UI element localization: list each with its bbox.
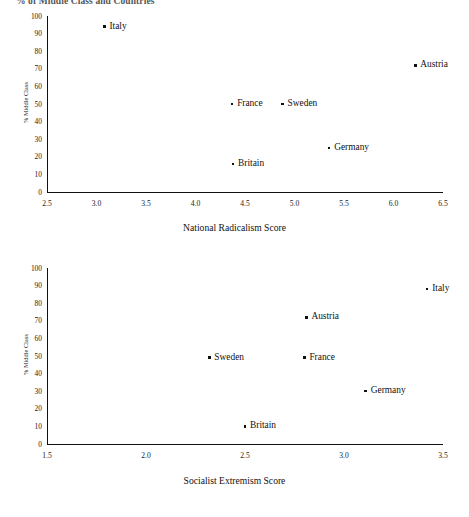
y-axis-tick-label: 70 xyxy=(16,65,42,72)
scatter-point xyxy=(208,356,211,359)
x-axis-line xyxy=(47,444,443,445)
x-axis-title: National Radicalism Score xyxy=(0,222,469,233)
y-axis-tick-label: 40 xyxy=(16,370,42,377)
y-axis-tick-label: 0 xyxy=(16,189,42,196)
y-axis-tick-label: 80 xyxy=(16,300,42,307)
y-axis-tick-label: 80 xyxy=(16,48,42,55)
scatter-point xyxy=(232,163,235,166)
scatter-point xyxy=(281,103,284,106)
scatter-point xyxy=(103,25,106,28)
scatter-chart-socialist-extremism: 01020304050607080901001.52.02.53.03.5% M… xyxy=(0,262,469,512)
figure-title: % of Middle Class and Countries xyxy=(16,0,155,5)
x-axis-tick-label: 6.0 xyxy=(379,200,409,208)
x-axis-tick-label: 3.0 xyxy=(82,200,112,208)
y-axis-tick-label: 0 xyxy=(16,441,42,448)
x-axis-tick-label: 5.5 xyxy=(329,200,359,208)
y-axis-tick-label: 30 xyxy=(16,136,42,143)
scatter-point-label: Austria xyxy=(420,60,448,69)
x-axis-tick-label: 3.5 xyxy=(428,452,458,460)
y-axis-tick-label: 60 xyxy=(16,83,42,90)
x-axis-tick-label: 5.0 xyxy=(280,200,310,208)
x-axis-tick-label: 2.5 xyxy=(230,452,260,460)
y-axis-tick-label: 90 xyxy=(16,30,42,37)
plot-area-1: 01020304050607080901002.53.03.54.04.55.0… xyxy=(0,12,469,260)
y-axis-tick-label: 70 xyxy=(16,317,42,324)
scatter-point xyxy=(414,64,417,67)
scatter-point xyxy=(303,356,306,359)
x-axis-tick-label: 2.5 xyxy=(32,200,62,208)
y-axis-tick-label: 10 xyxy=(16,423,42,430)
scatter-point-label: Britain xyxy=(238,159,264,168)
x-axis-tick-label: 2.0 xyxy=(131,452,161,460)
scatter-point-label: Germany xyxy=(334,143,369,152)
y-axis-tick-label: 50 xyxy=(16,353,42,360)
y-axis-line xyxy=(47,16,48,192)
scatter-point-label: Britain xyxy=(250,421,276,430)
scatter-chart-national-radicalism: 01020304050607080901002.53.03.54.04.55.0… xyxy=(0,12,469,260)
y-axis-tick-label: 20 xyxy=(16,405,42,412)
y-axis-title: % Middle Class xyxy=(22,73,29,133)
y-axis-tick-label: 30 xyxy=(16,388,42,395)
scatter-point xyxy=(231,103,234,106)
scatter-point-label: Sweden xyxy=(214,353,244,362)
x-axis-title: Socialist Extremism Score xyxy=(0,475,469,486)
scatter-point xyxy=(364,390,367,393)
scatter-point-label: Sweden xyxy=(288,99,318,108)
scatter-point-label: Germany xyxy=(371,386,406,395)
y-axis-title: % Middle Class xyxy=(22,325,29,385)
scatter-point xyxy=(244,425,247,428)
scatter-point xyxy=(426,288,429,291)
scatter-point-label: Italy xyxy=(432,284,449,293)
y-axis-tick-label: 50 xyxy=(16,101,42,108)
x-axis-tick-label: 6.5 xyxy=(428,200,458,208)
y-axis-tick-label: 10 xyxy=(16,171,42,178)
scatter-point xyxy=(305,316,308,319)
y-axis-tick-label: 20 xyxy=(16,153,42,160)
figure-page: % of Middle Class and Countries 01020304… xyxy=(0,0,469,517)
x-axis-line xyxy=(47,192,443,193)
x-axis-tick-label: 1.5 xyxy=(32,452,62,460)
x-axis-tick-label: 4.0 xyxy=(181,200,211,208)
y-axis-tick-label: 100 xyxy=(16,13,42,20)
y-axis-tick-label: 100 xyxy=(16,265,42,272)
y-axis-tick-label: 60 xyxy=(16,335,42,342)
y-axis-tick-label: 40 xyxy=(16,118,42,125)
scatter-point-label: Italy xyxy=(109,22,126,31)
x-axis-tick-label: 4.5 xyxy=(230,200,260,208)
scatter-point-label: France xyxy=(309,353,335,362)
scatter-point-label: Austria xyxy=(311,312,339,321)
y-axis-tick-label: 90 xyxy=(16,282,42,289)
x-axis-tick-label: 3.5 xyxy=(131,200,161,208)
x-axis-tick-label: 3.0 xyxy=(329,452,359,460)
y-axis-line xyxy=(47,268,48,444)
scatter-point-label: France xyxy=(237,99,263,108)
scatter-point xyxy=(328,147,331,150)
plot-area-2: 01020304050607080901001.52.02.53.03.5% M… xyxy=(0,262,469,512)
